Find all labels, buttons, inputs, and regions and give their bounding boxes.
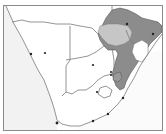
city-dot <box>126 23 128 25</box>
ocean-west <box>3 5 57 131</box>
map-frame <box>0 0 166 134</box>
city-dot <box>56 122 59 125</box>
city-dot <box>110 71 112 73</box>
city-dot <box>92 120 94 122</box>
southern-africa-map <box>0 0 166 134</box>
city-dot <box>44 52 46 54</box>
city-dot <box>110 74 112 76</box>
city-dot <box>122 97 124 99</box>
city-dot <box>152 33 154 35</box>
city-dot <box>92 64 94 66</box>
city-dot <box>30 53 32 55</box>
city-dot <box>107 113 109 115</box>
city-dot <box>96 91 98 93</box>
